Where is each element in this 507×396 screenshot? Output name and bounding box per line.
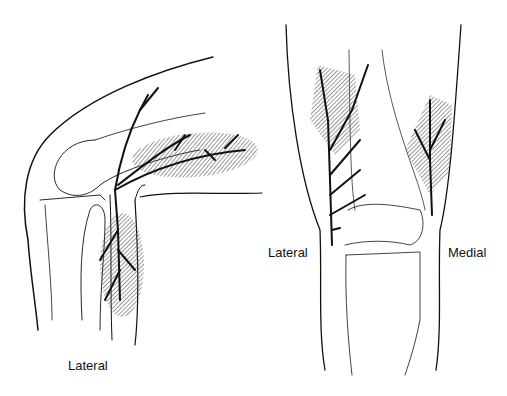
knee-diagram: [0, 0, 507, 396]
hatched-region-upper: [130, 128, 259, 183]
front-view-panel: [286, 25, 461, 375]
label-lateral-front: Lateral: [268, 245, 308, 260]
label-lateral-side: Lateral: [68, 358, 108, 373]
front-hatched-medial: [405, 95, 452, 195]
side-view-panel: [24, 57, 262, 345]
label-medial-front: Medial: [448, 245, 486, 260]
hatched-region-lower: [100, 213, 144, 317]
